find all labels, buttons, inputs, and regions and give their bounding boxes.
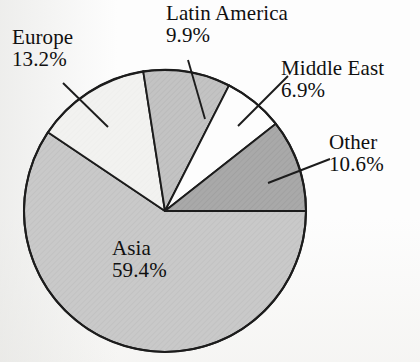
pie-label-middle-east-value: 6.9%: [281, 79, 384, 101]
pie-label-europe-name: Europe: [12, 26, 73, 48]
pie-chart-figure: Europe 13.2% Latin America 9.9% Middle E…: [0, 0, 420, 362]
pie-label-other: Other 10.6%: [329, 131, 384, 176]
pie-label-europe: Europe 13.2%: [12, 26, 73, 71]
pie-label-europe-value: 13.2%: [12, 48, 73, 70]
pie-label-middle-east: Middle East 6.9%: [281, 57, 384, 102]
pie-label-asia-name: Asia: [112, 237, 167, 259]
pie-label-middle-east-name: Middle East: [281, 57, 384, 79]
pie-label-asia-value: 59.4%: [112, 259, 167, 281]
pie-label-latin-america: Latin America 9.9%: [166, 2, 288, 47]
pie-label-other-name: Other: [329, 131, 384, 153]
pie-label-latin-america-value: 9.9%: [166, 24, 288, 46]
pie-label-latin-america-name: Latin America: [166, 2, 288, 24]
pie-label-other-value: 10.6%: [329, 153, 384, 175]
pie-label-asia: Asia 59.4%: [112, 237, 167, 282]
